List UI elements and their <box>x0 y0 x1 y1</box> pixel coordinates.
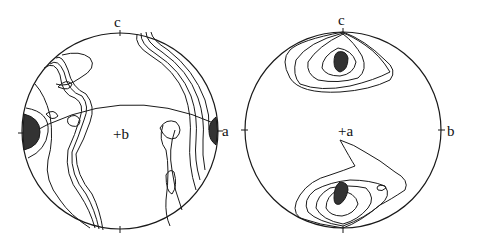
right-stereonet: c b +a <box>241 12 455 233</box>
left-label-a: a <box>222 123 229 139</box>
right-label-c: c <box>338 12 345 28</box>
left-label-c: c <box>114 14 121 30</box>
right-maximum-lower <box>334 182 348 204</box>
right-maximum-upper <box>334 52 348 72</box>
left-stereonet: c a +b <box>18 14 229 233</box>
right-contours-lower <box>295 140 406 228</box>
left-label-center-b: +b <box>113 126 129 142</box>
right-label-center-a: +a <box>338 123 353 139</box>
left-maximum-west <box>23 114 40 150</box>
left-contours-east <box>137 32 210 226</box>
figure-canvas: c a +b <box>0 0 477 245</box>
right-label-b: b <box>447 123 455 139</box>
